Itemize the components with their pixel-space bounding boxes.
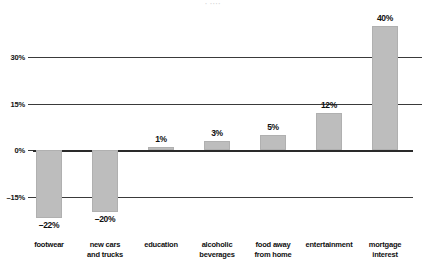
right-tick-stub-15	[413, 104, 422, 105]
bar[interactable]	[260, 135, 286, 151]
bar[interactable]	[92, 150, 118, 212]
x-category-label: alcoholic beverages	[187, 240, 247, 260]
bar-value-label: –22%	[22, 220, 76, 230]
tick-stub-0	[28, 150, 33, 151]
plot-area: –15%0%15%30% –22%–20%1%3%5%12%40% footwe…	[0, 0, 427, 276]
x-category-label: new cars and trucks	[75, 240, 135, 260]
y-tick-label-15: 15%	[0, 100, 25, 109]
gridline-15	[33, 104, 413, 105]
tick-stub--15	[28, 197, 33, 198]
y-tick-label-0: 0%	[0, 146, 25, 155]
bar[interactable]	[148, 147, 174, 150]
tick-stub-15	[28, 104, 33, 105]
x-category-label: food away from home	[243, 240, 303, 260]
bar[interactable]	[316, 113, 342, 150]
bar[interactable]	[36, 150, 62, 218]
bar-value-label: –20%	[78, 214, 132, 224]
bar[interactable]	[204, 141, 230, 150]
gridline-0	[33, 150, 413, 152]
bar-chart: · ···· –15%0%15%30% –22%–20%1%3%5%12%40%…	[0, 0, 427, 276]
tick-stub-30	[28, 57, 33, 58]
right-tick-stub-30	[413, 57, 422, 58]
bar-value-label: 40%	[358, 13, 412, 23]
bar-value-label: 3%	[190, 128, 244, 138]
x-category-label: mortgage interest	[355, 240, 415, 260]
x-category-label: footwear	[19, 240, 79, 250]
bar-value-label: 1%	[134, 134, 188, 144]
gridline-30	[33, 57, 413, 58]
x-category-label: entertainment	[299, 240, 359, 250]
y-tick-label--15: –15%	[0, 193, 25, 202]
bar[interactable]	[372, 26, 398, 150]
gridline--15	[33, 197, 413, 198]
y-tick-label-30: 30%	[0, 53, 25, 62]
bar-value-label: 5%	[246, 122, 300, 132]
x-category-label: education	[131, 240, 191, 250]
bar-value-label: 12%	[302, 100, 356, 110]
